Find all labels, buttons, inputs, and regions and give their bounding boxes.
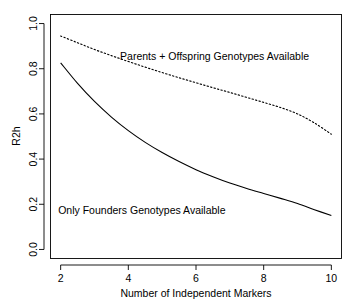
- y-axis-title: R2h: [10, 126, 22, 145]
- chart-figure: 246810 0.00.20.40.60.81.0 Parents + Offs…: [0, 0, 354, 306]
- curve-annotation-0: Parents + Offspring Genotypes Available: [120, 50, 309, 62]
- x-tick-label: 8: [261, 272, 267, 284]
- curve-annotation-1: Only Founders Genotypes Available: [58, 204, 225, 216]
- y-tick-label: 0.0: [28, 242, 40, 257]
- x-axis-title: Number of Independent Markers: [120, 287, 271, 299]
- y-tick-label: 0.2: [28, 197, 40, 212]
- x-tick-label: 10: [326, 272, 338, 284]
- x-tick-label: 2: [58, 272, 64, 284]
- y-tick-label: 0.8: [28, 61, 40, 76]
- y-tick-label: 0.4: [28, 152, 40, 167]
- y-tick-label: 0.6: [28, 106, 40, 121]
- x-tick-label: 6: [193, 272, 199, 284]
- chart-background: [0, 0, 354, 306]
- line-chart: 246810 0.00.20.40.60.81.0 Parents + Offs…: [0, 0, 354, 306]
- y-tick-label: 1.0: [28, 16, 40, 31]
- x-tick-label: 4: [125, 272, 131, 284]
